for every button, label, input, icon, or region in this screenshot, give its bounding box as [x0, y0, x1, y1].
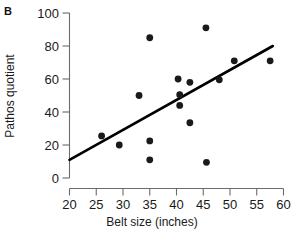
x-tick-label: 45 [196, 197, 210, 212]
x-tick-group: 202530354045505560 [62, 189, 290, 213]
x-tick-label: 40 [169, 197, 183, 212]
regression-line [70, 46, 273, 160]
chart-svg: B Belt size (inches) Pathos quotient 020… [0, 0, 293, 231]
y-axis-title: Pathos quotient [3, 54, 17, 138]
y-tick-label: 60 [45, 72, 59, 87]
x-tick-label: 60 [276, 197, 290, 212]
data-point [216, 76, 223, 83]
y-tick-label: 80 [45, 39, 59, 54]
y-tick-label: 0 [52, 171, 59, 186]
x-tick-label: 20 [62, 197, 76, 212]
x-axis: 202530354045505560 [62, 189, 290, 213]
data-point [136, 92, 143, 99]
y-tick-group: 020406080100 [37, 6, 69, 186]
data-point [116, 142, 123, 149]
y-axis: 020406080100 [37, 6, 69, 186]
data-point [176, 91, 183, 98]
data-point [186, 79, 193, 86]
data-point [146, 137, 153, 144]
scatter-plot-figure: B Belt size (inches) Pathos quotient 020… [0, 0, 293, 231]
data-point [146, 156, 153, 163]
x-tick-label: 50 [223, 197, 237, 212]
panel-label: B [4, 5, 12, 17]
x-tick-label: 35 [143, 197, 157, 212]
data-point [203, 24, 210, 31]
x-tick-label: 25 [89, 197, 103, 212]
x-tick-label: 55 [250, 197, 264, 212]
data-point [203, 159, 210, 166]
trend-line-group [70, 46, 273, 160]
data-point [146, 34, 153, 41]
data-point [186, 119, 193, 126]
x-axis-title: Belt size (inches) [106, 215, 197, 229]
data-point [176, 102, 183, 109]
x-tick-label: 30 [116, 197, 130, 212]
data-point [267, 57, 274, 64]
y-tick-label: 40 [45, 105, 59, 120]
y-tick-label: 100 [37, 6, 59, 21]
data-point [231, 57, 238, 64]
data-point [175, 76, 182, 83]
y-tick-label: 20 [45, 138, 59, 153]
data-point [98, 133, 105, 140]
